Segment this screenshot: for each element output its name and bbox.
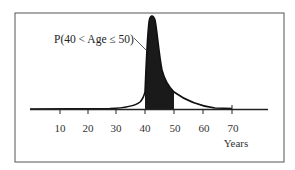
tick-label-60: 60 [199,122,211,134]
tick-label-50: 50 [170,122,182,134]
probability-density-chart: 10 20 30 40 50 60 70 Years P(40 < Age ≤ … [0,0,295,170]
tick-label-40: 40 [140,122,152,134]
tick-label-30: 30 [111,122,123,134]
tick-label-10: 10 [55,122,67,134]
tick-label-70: 70 [228,122,240,134]
tick-label-20: 20 [83,122,95,134]
probability-annotation: P(40 < Age ≤ 50) [54,33,134,46]
x-axis-label: Years [224,137,249,149]
